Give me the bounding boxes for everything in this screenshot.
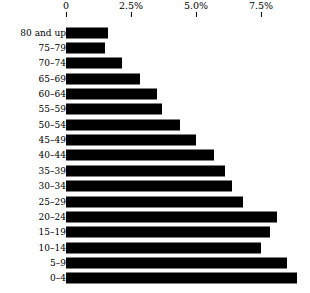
category-label: 0–4 (50, 273, 66, 283)
x-tick-1: 2.5% (119, 0, 143, 17)
bar (66, 196, 243, 207)
bar-row: 0–4 (0, 271, 310, 286)
x-tick-3: 7.5% (249, 0, 273, 17)
bar-row: 55–59 (0, 102, 310, 117)
bar (66, 104, 162, 115)
category-label: 10–14 (39, 243, 66, 253)
bar-row: 10–14 (0, 240, 310, 255)
category-label: 45–49 (39, 135, 66, 145)
category-label: 35–39 (39, 166, 66, 176)
plot-area: 80 and up75–7970–7465–6960–6455–5950–544… (0, 24, 310, 293)
bar (66, 273, 297, 284)
bar (66, 227, 270, 238)
category-label: 5–9 (50, 258, 66, 268)
bar-row: 70–74 (0, 56, 310, 71)
bar-row: 75–79 (0, 40, 310, 55)
bar (66, 73, 140, 84)
bar (66, 181, 232, 192)
bar (66, 150, 214, 161)
x-tick-0: 0 (63, 0, 69, 17)
bar (66, 211, 277, 222)
x-tick-mark (195, 12, 196, 17)
bar-row: 80 and up (0, 25, 310, 40)
bar-row: 30–34 (0, 179, 310, 194)
x-tick-2: 5.0% (184, 0, 208, 17)
x-tick-mark (130, 12, 131, 17)
x-tick-mark (65, 12, 66, 17)
bar (66, 27, 108, 38)
x-tick-label: 2.5% (119, 0, 143, 11)
category-label: 40–44 (39, 150, 66, 160)
category-label: 30–34 (39, 181, 66, 191)
x-tick-label: 7.5% (249, 0, 273, 11)
category-label: 25–29 (39, 197, 66, 207)
x-tick-label: 5.0% (184, 0, 208, 11)
category-label: 15–19 (39, 227, 66, 237)
category-label: 55–59 (39, 104, 66, 114)
x-tick-label: 0 (63, 0, 69, 11)
bar (66, 119, 180, 130)
bar (66, 43, 105, 54)
bar-row: 35–39 (0, 163, 310, 178)
bar (66, 89, 157, 100)
population-pyramid-chart: 02.5%5.0%7.5% 80 and up75–7970–7465–6960… (0, 0, 310, 293)
category-label: 50–54 (39, 120, 66, 130)
bar-row: 40–44 (0, 148, 310, 163)
category-label: 80 and up (20, 28, 66, 38)
bar-row: 25–29 (0, 194, 310, 209)
category-label: 65–69 (39, 74, 66, 84)
category-label: 60–64 (39, 89, 66, 99)
x-axis: 02.5%5.0%7.5% (0, 0, 310, 24)
bar (66, 58, 122, 69)
bar-row: 15–19 (0, 225, 310, 240)
bar-row: 45–49 (0, 132, 310, 147)
category-label: 20–24 (39, 212, 66, 222)
category-label: 70–74 (39, 58, 66, 68)
bar-row: 65–69 (0, 71, 310, 86)
bar-row: 20–24 (0, 209, 310, 224)
bar (66, 135, 196, 146)
bar-row: 60–64 (0, 86, 310, 101)
category-label: 75–79 (39, 43, 66, 53)
bar-row: 50–54 (0, 117, 310, 132)
bar-row: 5–9 (0, 255, 310, 270)
bar (66, 165, 225, 176)
bar (66, 257, 287, 268)
bar (66, 242, 261, 253)
x-tick-mark (260, 12, 261, 17)
